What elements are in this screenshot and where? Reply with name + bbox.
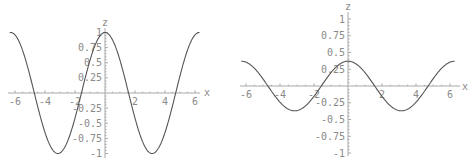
x-tick-label: -4 (274, 89, 286, 100)
plot1-axes: -6-4-2246 -1-0.75-0.5-0.250.250.50.751 x… (8, 17, 210, 159)
x-tick-label: 2 (132, 96, 138, 107)
z-axis-label: z (102, 17, 108, 28)
z-tick-label: 0.75 (321, 30, 345, 41)
x-tick-label: 6 (447, 89, 453, 100)
z-tick-label: 0.5 (84, 57, 102, 68)
z-tick-label: -0.75 (72, 133, 102, 144)
z-tick-label: 1 (339, 14, 345, 25)
x-tick-label: -6 (240, 89, 252, 100)
z-tick-label: -0.75 (315, 131, 345, 142)
figure: -6-4-2246 -1-0.75-0.5-0.250.250.50.751 x… (0, 0, 471, 165)
z-tick-label: -0.25 (315, 97, 345, 108)
x-tick-label: 6 (192, 96, 198, 107)
z-tick-label: 0.5 (327, 47, 345, 58)
x-tick-label: 4 (162, 96, 168, 107)
x-tick-label: 4 (413, 89, 419, 100)
z-tick-label: -0.5 (78, 118, 102, 129)
z-axis-label: z (345, 1, 351, 12)
x-axis-label: x (204, 87, 210, 98)
z-tick-label: -0.5 (321, 114, 345, 125)
z-tick-label: 0.75 (78, 42, 102, 53)
plot-damped-cos: -6-4-2246 -1-0.75-0.5-0.250.250.50.751 x… (236, 0, 471, 165)
plot-cos: -6-4-2246 -1-0.75-0.5-0.250.250.50.751 x… (0, 0, 236, 165)
z-tick-label: -1 (333, 148, 345, 159)
plot2-axes: -6-4-2246 -1-0.75-0.5-0.250.250.50.751 x… (240, 1, 468, 159)
x-axis-label: x (462, 81, 468, 92)
z-tick-label: -1 (90, 148, 102, 159)
x-tick-label: -6 (9, 96, 21, 107)
x-tick-label: -4 (39, 96, 51, 107)
z-tick-label: 0.25 (321, 64, 345, 75)
z-tick-label: 0.25 (78, 72, 102, 83)
